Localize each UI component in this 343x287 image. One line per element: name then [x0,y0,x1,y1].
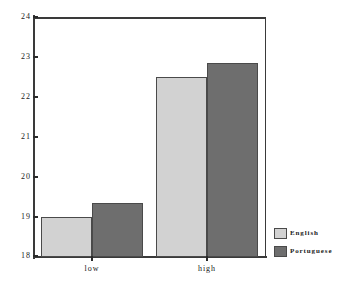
x-axis-label-high: high [183,264,231,274]
legend-label-english: English [290,229,319,237]
legend-item-english: English [274,224,332,242]
y-axis-label-23: 23 [9,53,31,61]
bar-low-portuguese [92,203,143,257]
bar-low-english [41,217,92,257]
y-axis-label-20: 20 [9,173,31,181]
x-axis-tick-high [206,256,208,261]
x-axis-tick-low [91,256,93,261]
legend-item-portuguese: Portuguese [274,242,332,260]
legend-swatch-icon-english [274,228,287,239]
legend: English Portuguese [274,224,332,260]
y-axis-label-22: 22 [9,93,31,101]
y-axis-tick [33,136,38,138]
y-axis-tick [33,96,38,98]
x-axis-label-low: low [68,264,116,274]
y-axis-label-24: 24 [9,13,31,21]
legend-label-portuguese: Portuguese [290,247,332,255]
bar-chart: 24 23 22 21 20 19 18 low high English Po… [0,0,343,287]
y-axis-tick [33,176,38,178]
legend-swatch-icon-portuguese [274,246,287,257]
y-axis-tick [33,255,38,257]
y-axis-tick [33,216,38,218]
y-axis-tick [33,16,38,18]
y-axis-tick [33,56,38,58]
bar-high-portuguese [207,63,258,257]
y-axis-label-18: 18 [9,252,31,260]
y-axis-label-19: 19 [9,213,31,221]
y-axis-label-21: 21 [9,133,31,141]
bar-high-english [156,77,207,257]
